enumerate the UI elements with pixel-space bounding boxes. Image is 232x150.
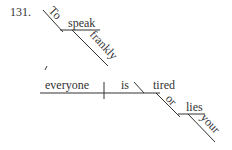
word-to: To	[46, 3, 65, 22]
word-lies: lies	[186, 100, 203, 114]
word-speak: speak	[68, 16, 95, 30]
word-tired: tired	[153, 78, 175, 92]
stand-tick	[45, 66, 47, 70]
word-or: or	[163, 91, 180, 108]
complement-slash	[134, 82, 144, 93]
word-is: is	[121, 78, 129, 92]
sentence-diagram: 131. To speak frankly everyone is tired …	[0, 0, 232, 150]
word-everyone: everyone	[45, 78, 89, 92]
word-frankly: frankly	[87, 27, 121, 62]
problem-number: 131.	[10, 5, 31, 19]
